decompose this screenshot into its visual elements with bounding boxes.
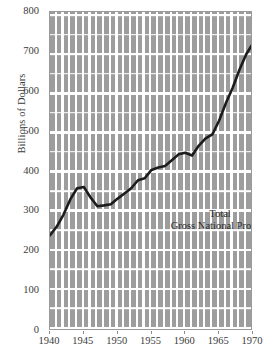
x-axis-tick-label: 1960	[167, 336, 201, 347]
data-series-line	[50, 12, 252, 330]
chart-container: Billions of Dollars 01002003004005006007…	[0, 0, 267, 355]
x-axis-tick-label: 1950	[100, 336, 134, 347]
x-axis-tick-mark	[218, 331, 219, 334]
x-axis-tick-mark	[252, 331, 253, 334]
x-axis-tick-mark	[49, 331, 50, 334]
x-axis-tick-label: 1970	[235, 336, 267, 347]
x-axis-tick-label: 1955	[134, 336, 168, 347]
x-axis-tick-label: 1940	[32, 336, 66, 347]
x-axis-tick-mark	[117, 331, 118, 334]
x-axis-tick-mark	[184, 331, 185, 334]
x-axis-tick-mark	[83, 331, 84, 334]
x-axis-tick-mark	[151, 331, 152, 334]
x-axis-tick-label: 1965	[201, 336, 235, 347]
x-axis-tick-label: 1945	[66, 336, 100, 347]
plot-area: Total Gross National Product	[49, 11, 252, 330]
